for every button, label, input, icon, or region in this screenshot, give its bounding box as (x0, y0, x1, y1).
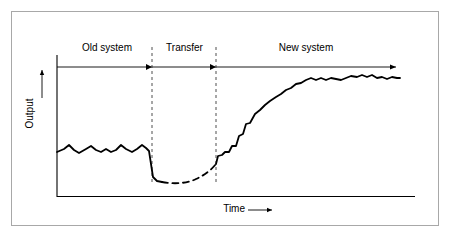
curve-old-system (57, 145, 162, 182)
phase-label-transfer: Transfer (153, 42, 216, 53)
axis-lines (57, 55, 415, 197)
curve-new-system (216, 75, 400, 164)
phase-label-new-system: New system (217, 42, 395, 53)
x-axis-label: Time (185, 203, 245, 214)
phase-tick-transfer-end (210, 64, 216, 70)
phase-tick-old-end (146, 64, 152, 70)
phase-label-old-system: Old system (62, 42, 152, 53)
y-axis-label: Output (24, 79, 35, 149)
curve-transfer-dip (162, 164, 216, 183)
diagram-figure: Old system Transfer New system Time Outp… (0, 0, 451, 238)
